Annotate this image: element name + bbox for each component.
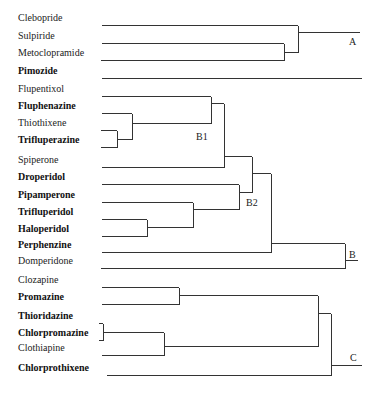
leaf-label: Thioridazine <box>18 310 74 321</box>
leaf-label: Trifluperidol <box>18 206 74 217</box>
leaf-label: Pimozide <box>18 65 58 76</box>
cluster-label: B2 <box>246 197 258 208</box>
cluster-labels: AB1B2BC <box>196 36 357 363</box>
leaf-label: Droperidol <box>18 171 65 182</box>
leaf-label: Pipamperone <box>18 189 76 200</box>
leaf-labels: CleboprideSulpirideMetoclopramidePimozid… <box>18 12 89 373</box>
cluster-label: A <box>349 36 357 47</box>
leaf-label: Flupentixol <box>18 83 64 94</box>
leaf-label: Chlorpromazine <box>18 327 89 338</box>
leaf-label: Haloperidol <box>18 223 69 234</box>
leaf-label: Clozapine <box>18 274 59 285</box>
leaf-label: Domperidone <box>18 255 74 266</box>
leaf-label: Metoclopramide <box>18 47 85 58</box>
leaf-label: Perphenzine <box>18 239 72 250</box>
leaf-label: Spiperone <box>18 154 59 165</box>
dendrogram-branches <box>99 26 362 376</box>
leaf-label: Clebopride <box>18 12 63 23</box>
cluster-label: C <box>350 352 357 363</box>
leaf-label: Sulpiride <box>18 30 55 41</box>
leaf-label: Fluphenazine <box>18 100 76 111</box>
cluster-label: B <box>349 249 356 260</box>
leaf-label: Chlorprothixene <box>18 362 89 373</box>
cluster-label: B1 <box>196 131 208 142</box>
leaf-label: Clothiapine <box>18 342 65 353</box>
leaf-label: Thiothixene <box>18 117 67 128</box>
leaf-label: Trifluperazine <box>18 134 80 145</box>
dendrogram: CleboprideSulpirideMetoclopramidePimozid… <box>0 0 378 397</box>
leaf-label: Promazine <box>18 291 64 302</box>
